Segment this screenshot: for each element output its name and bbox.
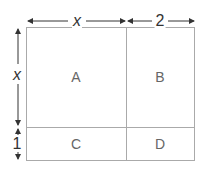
outer-rectangle bbox=[27, 28, 195, 161]
width-x-label: x bbox=[72, 13, 82, 29]
area-diagram bbox=[0, 0, 200, 169]
height-1-label: 1 bbox=[12, 136, 23, 152]
region-b-label: B bbox=[155, 70, 164, 84]
region-a-label: A bbox=[71, 70, 80, 84]
region-d-label: D bbox=[155, 137, 165, 151]
width-2-label: 2 bbox=[155, 13, 166, 29]
region-c-label: C bbox=[71, 137, 81, 151]
height-x-label: x bbox=[12, 67, 22, 83]
